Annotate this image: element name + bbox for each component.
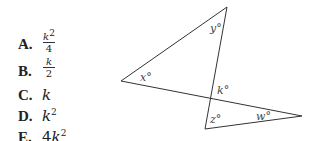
angle-k-label: k° [217,84,229,97]
angle-x-label: x° [140,71,152,84]
angle-y-label: y° [209,22,222,35]
line-left-right [121,81,302,116]
angle-z-label: z° [209,113,221,126]
geometry-figure: x° y° k° z° w° [0,0,313,141]
angle-w-label: w° [256,110,271,123]
line-left-top [121,7,227,81]
